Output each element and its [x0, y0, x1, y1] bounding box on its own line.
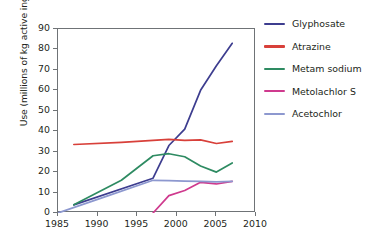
- y-tick-label: 90: [20, 23, 50, 32]
- legend: GlyphosateAtrazineMetam sodiumMetolachlo…: [264, 13, 368, 125]
- legend-item[interactable]: Metam sodium: [264, 58, 368, 80]
- series-line: [74, 139, 232, 144]
- legend-label: Atrazine: [292, 42, 331, 51]
- legend-swatch-icon: [264, 45, 285, 47]
- legend-label: Metolachlor S: [292, 87, 356, 96]
- legend-label: Glyphosate: [292, 19, 345, 28]
- x-tick-label: 1995: [116, 219, 156, 228]
- y-tick-label: 30: [20, 146, 50, 155]
- y-tick-label: 70: [20, 64, 50, 73]
- legend-item[interactable]: Glyphosate: [264, 13, 368, 35]
- x-tick-label: 2010: [235, 219, 275, 228]
- y-tick-label: 60: [20, 84, 50, 93]
- x-tick-label: 1985: [37, 219, 77, 228]
- series-lines: [58, 29, 256, 213]
- plot-area: [57, 28, 255, 212]
- series-line: [153, 181, 232, 213]
- y-tick-label: 0: [20, 207, 50, 216]
- line-chart: Use (millions of kg active ingredient) 0…: [0, 0, 368, 247]
- series-line: [58, 180, 232, 213]
- x-tick-label: 2000: [156, 219, 196, 228]
- y-tick-label: 20: [20, 166, 50, 175]
- legend-swatch-icon: [264, 23, 285, 25]
- legend-label: Acetochlor: [292, 109, 342, 118]
- y-tick-label: 40: [20, 125, 50, 134]
- legend-swatch-icon: [264, 113, 285, 115]
- legend-item[interactable]: Acetochlor: [264, 103, 368, 125]
- y-tick-label: 10: [20, 187, 50, 196]
- x-tick-label: 2005: [195, 219, 235, 228]
- legend-label: Metam sodium: [292, 64, 362, 73]
- y-tick-label: 50: [20, 105, 50, 114]
- legend-swatch-icon: [264, 90, 285, 92]
- x-tick-label: 1990: [77, 219, 117, 228]
- legend-item[interactable]: Metolachlor S: [264, 80, 368, 102]
- legend-swatch-icon: [264, 68, 285, 70]
- y-tick-label: 80: [20, 43, 50, 52]
- legend-item[interactable]: Atrazine: [264, 35, 368, 57]
